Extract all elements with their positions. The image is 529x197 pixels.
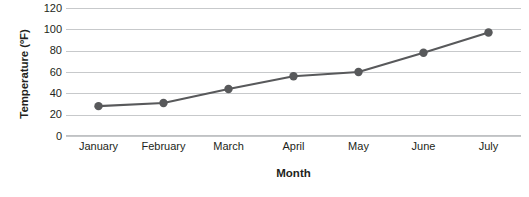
gridline xyxy=(66,136,521,137)
data-point xyxy=(224,85,232,93)
y-axis-tick-label: 120 xyxy=(30,3,62,14)
data-point xyxy=(484,28,492,36)
data-point xyxy=(94,102,102,110)
x-axis-tick-label: July xyxy=(444,140,529,153)
y-axis-tick-label: 60 xyxy=(30,67,62,78)
line-chart-figure: Temperature (ºF) 020406080100120 January… xyxy=(0,0,529,197)
data-point xyxy=(289,72,297,80)
temperature-series xyxy=(66,8,521,136)
y-axis-tick-label: 100 xyxy=(30,24,62,35)
data-point xyxy=(159,99,167,107)
x-axis-tick-labels: JanuaryFebruaryMarchAprilMayJuneJuly xyxy=(66,140,521,156)
series-line xyxy=(99,33,489,107)
series-markers xyxy=(94,28,492,110)
y-axis-tick-label: 80 xyxy=(30,45,62,56)
data-point xyxy=(354,68,362,76)
x-axis-title: Month xyxy=(66,167,521,179)
y-axis-tick-labels: 020406080100120 xyxy=(30,8,62,136)
plot-area xyxy=(66,8,521,136)
y-axis-tick-label: 40 xyxy=(30,88,62,99)
y-axis-tick-label: 20 xyxy=(30,109,62,120)
data-point xyxy=(419,49,427,57)
